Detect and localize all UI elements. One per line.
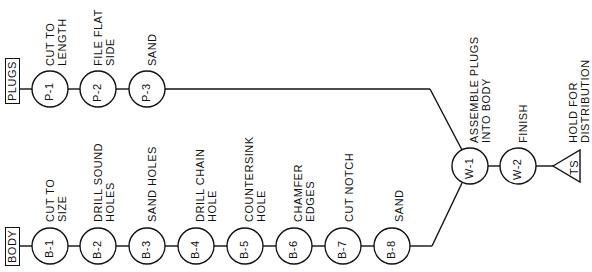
- op-desc-b5: COUNTERSINK HOLE: [243, 136, 267, 222]
- op-id-b8: B-8: [385, 240, 397, 259]
- op-desc-p3: SAND: [146, 33, 158, 66]
- op-desc-b7: CUT NOTCH: [343, 153, 355, 222]
- storage-id-ts: TS: [568, 160, 580, 175]
- op-desc-b4: DRILL CHAIN HOLE: [194, 148, 218, 222]
- op-desc-w1: ASSEMBLE PLUGS INTO BODY: [468, 36, 492, 143]
- op-id-b3: B-3: [140, 240, 152, 259]
- op-id-w1: W-1: [463, 158, 475, 179]
- op-desc-b1: CUT TO SIZE: [44, 179, 68, 222]
- op-desc-b2: DRILL SOUND HOLES: [92, 143, 116, 222]
- op-desc-p1: CUT TO LENGTH: [44, 18, 68, 66]
- op-id-b7: B-7: [336, 240, 348, 259]
- op-id-b4: B-4: [189, 240, 201, 259]
- storage-desc-ts: HOLD FOR DISTRIBUTION: [567, 59, 591, 143]
- process-flow-lines: [0, 0, 592, 272]
- op-id-w2: W-2: [511, 159, 523, 180]
- op-desc-b3: SAND HOLES: [146, 146, 158, 222]
- op-desc-p2: FILE FLAT SIDE: [92, 9, 116, 66]
- plugs-line-label: PLUGS: [5, 58, 20, 104]
- body-line-label: BODY: [5, 227, 20, 266]
- op-id-b1: B-1: [43, 239, 55, 258]
- op-id-p1: P-1: [43, 82, 55, 101]
- op-id-b6: B-6: [287, 240, 299, 259]
- op-id-b5: B-5: [238, 240, 250, 259]
- op-id-p3: P-3: [140, 83, 152, 102]
- op-desc-w2: FINISH: [517, 104, 529, 143]
- op-id-p2: P-2: [91, 83, 103, 102]
- op-desc-b8: SAND: [393, 189, 405, 222]
- op-desc-b6: CHAMFER EDGES: [292, 164, 316, 222]
- op-id-b2: B-2: [91, 240, 103, 259]
